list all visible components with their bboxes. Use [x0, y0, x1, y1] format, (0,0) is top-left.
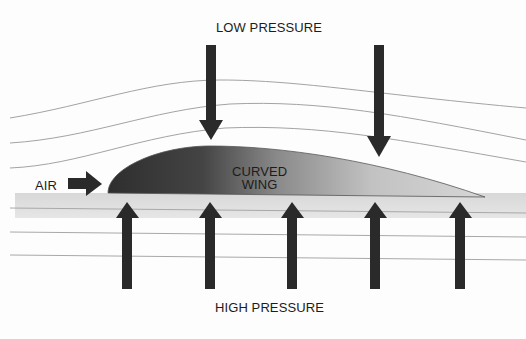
curved-wing-label: CURVED WING: [232, 165, 287, 191]
lift-diagram: LOW PRESSURE AIR CURVED WING HIGH PRESSU…: [0, 0, 526, 339]
curved-wing-shape: [108, 146, 485, 197]
air-arrow: [68, 171, 102, 196]
wing-label-line2: WING: [232, 178, 287, 191]
high-pressure-label: HIGH PRESSURE: [215, 301, 324, 314]
low-pressure-label: LOW PRESSURE: [216, 21, 322, 34]
air-label: AIR: [35, 179, 57, 192]
down-arrows: [199, 45, 391, 157]
